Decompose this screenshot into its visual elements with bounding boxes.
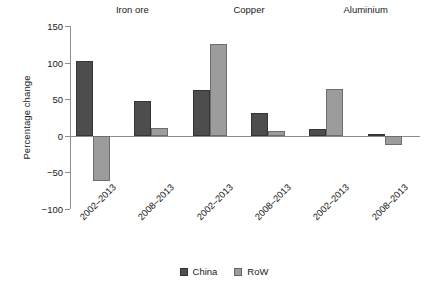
bar-row [268, 131, 285, 136]
y-tick-mark [65, 99, 70, 100]
x-axis-label: 2008–2013 [370, 182, 410, 222]
y-tick-mark [65, 26, 70, 27]
group-title: Iron ore [116, 4, 149, 15]
y-tick-label: 100 [47, 57, 63, 68]
y-axis-line [70, 26, 71, 209]
y-tick-label: 150 [47, 21, 63, 32]
legend-item[interactable]: China [180, 266, 218, 277]
y-tick-mark [65, 63, 70, 64]
bar-china [309, 129, 326, 136]
legend-swatch-icon [180, 268, 188, 276]
group-title: Aluminium [343, 4, 387, 15]
group-title: Copper [233, 4, 264, 15]
y-axis-title: Percentage change [21, 43, 32, 193]
bar-china [76, 61, 93, 136]
y-tick-label: 0 [58, 130, 63, 141]
x-axis-label: 2002–2013 [78, 182, 118, 222]
bar-row [151, 128, 168, 136]
bar-row [93, 136, 110, 181]
y-tick-mark [65, 172, 70, 173]
x-axis-label: 2008–2013 [136, 182, 176, 222]
bar-row [326, 89, 343, 136]
bar-china [193, 90, 210, 135]
x-axis-label: 2002–2013 [195, 182, 235, 222]
legend-label: RoW [247, 266, 268, 277]
bar-row [210, 44, 227, 136]
bar-chart: Percentage change 150100500−50−100 Iron … [0, 0, 448, 295]
y-tick-label: −50 [47, 167, 63, 178]
bar-china [134, 101, 151, 135]
chart-legend: ChinaRoW [0, 266, 448, 277]
legend-label: China [193, 266, 218, 277]
legend-swatch-icon [234, 268, 242, 276]
y-tick-label: 50 [52, 94, 63, 105]
bar-china [251, 113, 268, 136]
legend-item[interactable]: RoW [234, 266, 268, 277]
y-tick-mark [65, 209, 70, 210]
bar-china [368, 134, 385, 136]
y-tick-mark [65, 136, 70, 137]
x-axis-label: 2008–2013 [253, 182, 293, 222]
x-axis-label: 2002–2013 [311, 182, 351, 222]
bar-row [385, 136, 402, 146]
plot-area: 150100500−50−100 Iron oreCopperAluminium… [70, 26, 420, 209]
y-tick-label: −100 [42, 204, 63, 215]
